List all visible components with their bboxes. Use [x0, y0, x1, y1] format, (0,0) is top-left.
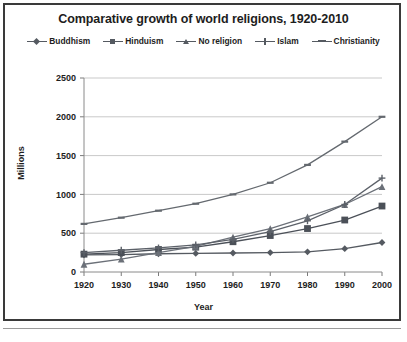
plot-area: 0500100015002000250019201930194019501960… [0, 0, 407, 342]
chart-figure: Comparative growth of world religions, 1… [0, 0, 407, 342]
bar-marker-icon [192, 203, 199, 205]
diamond-marker-icon [267, 249, 274, 256]
bar-marker-icon [304, 164, 311, 166]
x-tick-label: 1990 [335, 280, 355, 290]
diamond-marker-icon [230, 250, 237, 257]
triangle-marker-icon [379, 183, 386, 190]
x-tick-label: 1930 [111, 280, 131, 290]
y-axis-title: Millions [16, 128, 26, 198]
x-tick-label: 1940 [148, 280, 168, 290]
y-tick-label: 1000 [56, 190, 76, 200]
bar-marker-icon [118, 217, 125, 219]
square-marker-icon [379, 203, 386, 210]
x-tick-label: 1960 [223, 280, 243, 290]
diamond-marker-icon [341, 245, 348, 252]
x-tick-label: 1920 [74, 280, 94, 290]
diamond-marker-icon [192, 250, 199, 257]
y-tick-label: 2000 [56, 112, 76, 122]
x-tick-label: 1970 [260, 280, 280, 290]
series-line [84, 206, 382, 254]
bar-marker-icon [155, 210, 162, 212]
diamond-marker-icon [379, 239, 386, 246]
bar-marker-icon [379, 116, 386, 118]
square-marker-icon [304, 225, 311, 232]
bar-marker-icon [341, 141, 348, 143]
bar-marker-icon [81, 223, 88, 225]
series-christianity [81, 116, 386, 225]
x-tick-label: 1950 [186, 280, 206, 290]
diamond-marker-icon [304, 248, 311, 255]
square-marker-icon [341, 217, 348, 224]
x-tick-label: 1980 [297, 280, 317, 290]
x-axis-title: Year [0, 302, 407, 312]
y-tick-label: 500 [61, 228, 76, 238]
bar-marker-icon [230, 193, 237, 195]
x-tick-label: 2000 [372, 280, 392, 290]
y-tick-label: 2500 [56, 73, 76, 83]
bar-marker-icon [267, 182, 274, 184]
y-tick-label: 0 [71, 267, 76, 277]
y-tick-label: 1500 [56, 151, 76, 161]
